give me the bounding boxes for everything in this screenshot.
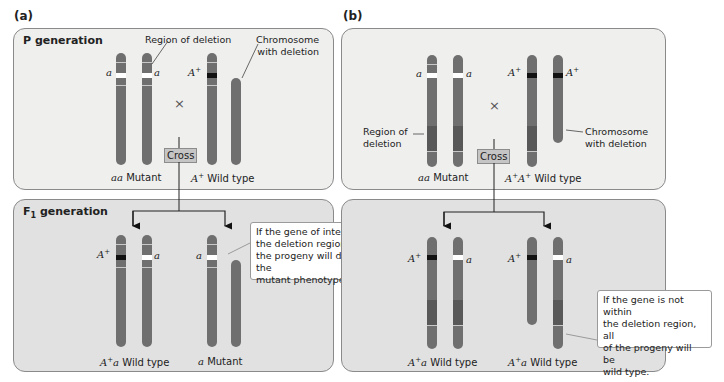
connector-arrows <box>0 0 724 382</box>
